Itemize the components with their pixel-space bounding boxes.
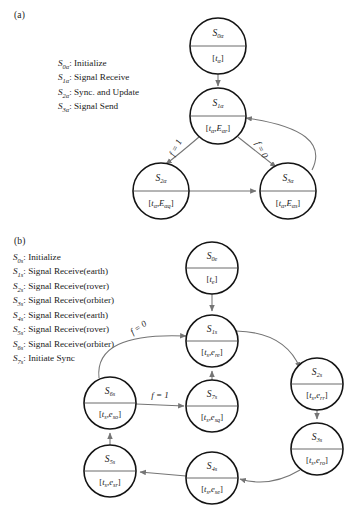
edge-s6s-to-s7s — [136, 404, 184, 406]
node-s2a-content: [tα,Eαq] — [148, 198, 173, 209]
node-s5s-content: [ts,esr] — [99, 477, 120, 488]
edge-s4s-to-s5s — [140, 472, 186, 476]
node-s1a-content: [tα,Eαr] — [206, 123, 231, 134]
node-s7s-content: [ts,esq] — [201, 412, 223, 423]
node-s1a[interactable]: S1α [tα,Eαr] — [190, 88, 246, 144]
node-s4s[interactable]: S4s [ts,ese] — [186, 452, 238, 504]
edge-label-b-f0: f = 0 — [128, 318, 149, 336]
node-s3s-content: [ts,ero] — [306, 455, 328, 466]
node-s0a[interactable]: S0α [tα] — [190, 18, 246, 74]
node-s1s-content: [ts,ere] — [201, 347, 223, 358]
node-s3a[interactable]: S3α [tα,Eαs] — [260, 163, 316, 219]
node-s3s[interactable]: S3s [ts,ero] — [291, 423, 343, 475]
node-s6s-content: [ts,eso] — [99, 409, 121, 420]
node-s2a[interactable]: S2α [tα,Eαq] — [133, 163, 189, 219]
node-s7s[interactable]: S7s [ts,esq] — [186, 380, 238, 432]
edge-s1s-to-s2s — [236, 331, 300, 368]
node-s4s-content: [ts,ese] — [201, 484, 223, 495]
edge-s3s-to-s4s — [240, 470, 300, 482]
edge-label-a-f1: f = 1 — [167, 137, 184, 157]
node-s3a-content: [tα,Eαs] — [276, 198, 301, 209]
edge-label-a-f0: f = 0 — [253, 139, 270, 160]
node-s2s-content: [ts,err] — [306, 390, 327, 401]
state-machine-svg: f = 1 f = 0 S0α [tα] S1α [tα,Eαr] S2α [t… — [0, 0, 358, 521]
edge-label-b-f1: f = 1 — [151, 390, 169, 400]
figure-canvas: (a) S0α: Initialize S1α: Signal Receive … — [0, 0, 358, 521]
node-s0e[interactable]: S0e [te] — [186, 242, 238, 294]
edge-s6s-to-s1s-f0 — [99, 336, 186, 378]
node-s5s[interactable]: S5s [ts,esr] — [84, 445, 136, 497]
node-s1s[interactable]: S1s [ts,ere] — [186, 315, 238, 367]
node-s2s[interactable]: S2s [ts,err] — [291, 358, 343, 410]
node-s6s[interactable]: S6s [ts,eso] — [84, 377, 136, 429]
